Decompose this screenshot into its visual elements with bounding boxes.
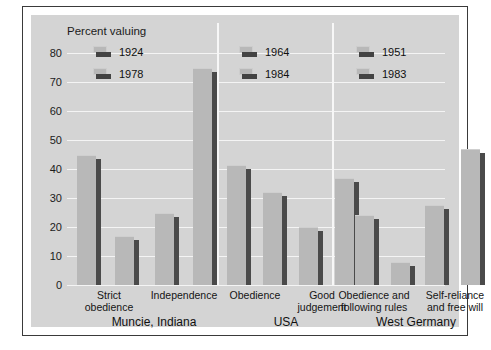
- bar-face: [263, 192, 282, 285]
- legend-item: 1924: [93, 45, 143, 58]
- bar-face: [193, 68, 212, 286]
- bar-face: [77, 155, 96, 286]
- bar-face: [299, 227, 318, 285]
- bar-side: [282, 196, 287, 285]
- bar-face: [155, 213, 174, 286]
- bar-face: [391, 262, 410, 285]
- category-label-obedience: Obedience: [217, 289, 293, 301]
- bar: [299, 227, 323, 285]
- bar-face: [335, 178, 354, 285]
- bar: [355, 215, 379, 285]
- legend-label: 1984: [265, 68, 289, 80]
- y-axis-title: Percent valuing: [67, 25, 146, 37]
- bar-face: [355, 215, 374, 285]
- y-axis-tick: 30: [50, 192, 62, 204]
- bar: [263, 192, 287, 285]
- bar: [461, 149, 485, 285]
- panel-separator: [217, 23, 219, 285]
- legend-swatch-icon: [239, 68, 257, 79]
- bar: [193, 68, 217, 286]
- group-label-usa: USA: [236, 315, 336, 329]
- legend-swatch-icon: [356, 46, 374, 57]
- gridline: [67, 198, 445, 199]
- gridline: [67, 140, 445, 141]
- bar: [391, 262, 415, 285]
- legend-item: 1964: [239, 45, 289, 58]
- bar-side: [96, 159, 101, 286]
- bar-face: [115, 236, 134, 285]
- legend-item: 1978: [93, 67, 143, 80]
- category-label-strict-obedience: Strict obedience: [74, 289, 144, 313]
- bar-face: [461, 149, 480, 285]
- panel-separator: [332, 23, 334, 285]
- bar: [115, 236, 139, 285]
- y-axis-tick: 60: [50, 105, 62, 117]
- legend-swatch-icon: [356, 68, 374, 79]
- bar: [77, 155, 101, 286]
- category-label-obedience-rules: Obedience and following rules: [330, 289, 418, 313]
- bar-side: [134, 240, 139, 285]
- y-axis-tick: 80: [50, 47, 62, 59]
- group-label-westgermany: West Germany: [351, 315, 481, 329]
- legend-swatch-icon: [93, 46, 111, 57]
- legend-swatch-icon: [93, 68, 111, 79]
- bar: [155, 213, 179, 286]
- bar-side: [246, 169, 251, 285]
- legend-label: 1964: [265, 46, 289, 58]
- legend-muncie: 1924 1978: [93, 45, 143, 89]
- category-label-independence: Independence: [141, 289, 227, 301]
- legend-item: 1983: [356, 67, 406, 80]
- bar-side: [374, 219, 379, 285]
- legend-label: 1983: [382, 68, 406, 80]
- bar: [425, 205, 449, 285]
- bar: [227, 165, 251, 285]
- legend-item: 1951: [356, 45, 406, 58]
- bar-side: [480, 153, 485, 285]
- category-label-self-reliance: Self-reliance and free will: [413, 289, 491, 313]
- group-label-muncie: Muncie, Indiana: [89, 315, 219, 329]
- legend-westgermany: 1951 1983: [356, 45, 406, 89]
- legend-label: 1978: [119, 68, 143, 80]
- legend-swatch-icon: [239, 46, 257, 57]
- chart-plot-area: Percent valuing 80706050403020100 1924 1…: [31, 15, 459, 327]
- legend-item: 1984: [239, 67, 289, 80]
- bar-face: [425, 205, 444, 285]
- bar-side: [318, 231, 323, 285]
- bar-side: [444, 209, 449, 285]
- legend-label: 1924: [119, 46, 143, 58]
- legend-usa: 1964 1984: [239, 45, 289, 89]
- chart-frame: Percent valuing 80706050403020100 1924 1…: [22, 6, 468, 336]
- gridline: [67, 169, 445, 170]
- y-axis-tick: 40: [50, 163, 62, 175]
- bar-side: [212, 72, 217, 286]
- gridline: [67, 227, 445, 228]
- y-axis-tick: 0: [56, 279, 62, 291]
- y-axis-tick: 10: [50, 250, 62, 262]
- y-axis-tick: 50: [50, 134, 62, 146]
- gridline: [67, 111, 445, 112]
- y-axis-tick: 20: [50, 221, 62, 233]
- bar-face: [227, 165, 246, 285]
- legend-label: 1951: [382, 46, 406, 58]
- gridline: [67, 285, 445, 286]
- y-axis-tick: 70: [50, 76, 62, 88]
- bar-side: [410, 266, 415, 285]
- bar-side: [174, 217, 179, 286]
